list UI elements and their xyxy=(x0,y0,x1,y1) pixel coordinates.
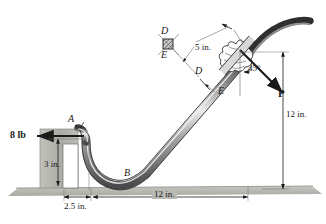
bar-section-leaders xyxy=(200,79,215,92)
dim-2p5in-label: 2.5 in. xyxy=(64,202,87,211)
force-p-arrow xyxy=(240,50,283,96)
bar-e-label: E xyxy=(218,86,224,96)
dim-12in-vertical-label: 12 in. xyxy=(286,110,307,119)
dim-5in xyxy=(196,24,243,44)
dim-12in-horizontal-label: 12 in. xyxy=(152,190,177,199)
force-8lb-label: 8 lb xyxy=(10,130,26,140)
figure-canvas: 8 lb 3 in. A B 2.5 in. 12 in. 12 in. 5 i… xyxy=(0,0,326,224)
section-e-label: E xyxy=(161,50,167,60)
section-d-label: D xyxy=(161,26,168,36)
angle-45-label: 45° xyxy=(248,64,261,73)
dim-5in-label: 5 in. xyxy=(194,43,212,52)
bar-d-label: D xyxy=(195,66,202,76)
point-b-label: B xyxy=(124,168,130,178)
dim-3in-label: 3 in. xyxy=(44,160,60,169)
point-a-label: A xyxy=(68,114,74,124)
force-p-label: P xyxy=(278,88,285,99)
